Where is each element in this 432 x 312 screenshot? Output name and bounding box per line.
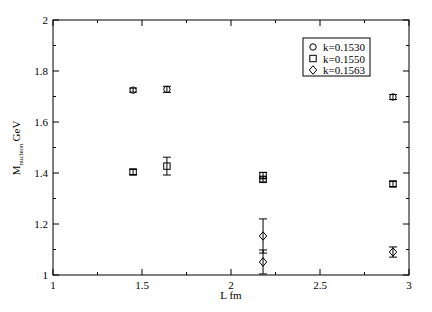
y-tick-label: 1.4: [34, 167, 48, 179]
y-axis-label: MnucleonGeV: [10, 121, 25, 176]
legend-label: k=0.1563: [323, 64, 365, 76]
x-tick-label: 1: [50, 279, 56, 291]
nucleon-mass-chart: 11.522.5311.21.41.61.82 k=0.1530k=0.1550…: [0, 0, 432, 312]
y-tick-label: 1.2: [34, 218, 48, 230]
y-tick-label: 1.8: [34, 65, 48, 77]
legend-label: k=0.1530: [323, 41, 365, 53]
legend-label: k=0.1550: [323, 53, 365, 65]
y-axis-label-text: MnucleonGeV: [10, 121, 25, 176]
x-tick-label: 3: [406, 279, 412, 291]
legend: k=0.1530k=0.1550k=0.1563: [303, 38, 370, 76]
x-tick-label: 1.5: [135, 279, 149, 291]
x-axis-label: L fm: [220, 289, 242, 301]
data-points: [129, 86, 397, 274]
y-tick-label: 1: [43, 269, 49, 281]
y-tick-label: 1.6: [34, 116, 48, 128]
y-tick-label: 2: [43, 14, 49, 26]
x-tick-label: 2.5: [313, 279, 327, 291]
